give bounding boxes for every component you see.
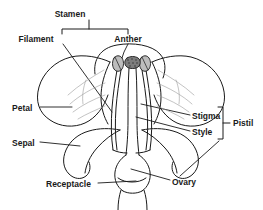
sepal-right (142, 129, 198, 179)
label-anther: Anther (114, 35, 141, 44)
label-filament: Filament (19, 35, 54, 44)
flower-anatomy-diagram: Stamen Filament Anther Petal Sepal Recep… (0, 0, 263, 210)
stamen-bracket (62, 20, 128, 34)
diagram-canvas (0, 0, 263, 210)
label-petal: Petal (12, 104, 32, 113)
label-ovary: Ovary (172, 178, 196, 187)
receptacle (113, 150, 150, 182)
anther-left (113, 56, 124, 72)
label-pistil: Pistil (233, 119, 253, 128)
label-receptacle: Receptacle (46, 180, 91, 189)
style (126, 68, 139, 155)
label-stamen: Stamen (55, 10, 86, 19)
label-style: Style (192, 128, 212, 137)
ovary (115, 155, 150, 193)
stigma (125, 57, 141, 69)
filament-left (111, 70, 121, 150)
label-stigma: Stigma (192, 112, 220, 121)
petal-left (37, 56, 110, 126)
label-sepal: Sepal (12, 139, 35, 148)
filament-right (142, 70, 152, 150)
anther-right (140, 56, 151, 72)
